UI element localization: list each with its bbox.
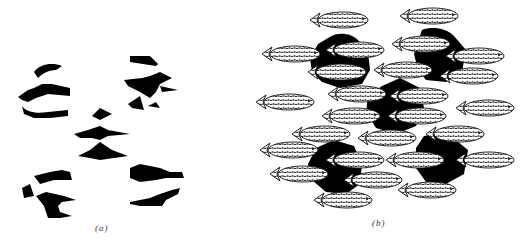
fish-occlusion-illustration [250,0,525,244]
fragments-illustration [0,0,250,244]
caption-a: (a) [95,223,109,233]
panel-b-fish-occluders: (b) [250,0,525,244]
caption-b: (b) [372,218,386,228]
panel-a-fragments: (a) [0,0,250,244]
